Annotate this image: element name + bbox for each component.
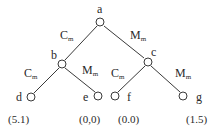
payoff-g: (1.5) [186, 113, 207, 125]
edge-label-b-d: Cm [24, 67, 37, 83]
edge-label-b-e: Mm [82, 64, 98, 80]
edge-label-a-c: Mm [130, 29, 146, 45]
edge-label-c-g: Mm [175, 67, 191, 83]
node-b [58, 60, 66, 68]
edge-label-c-f: Cm [111, 67, 124, 83]
payoff-e: (0,0) [79, 113, 100, 125]
node-label-e: e [83, 91, 88, 103]
node-c [144, 58, 152, 66]
node-label-b: b [51, 49, 57, 61]
node-d [27, 93, 35, 101]
edge-label-a-b: Cm [60, 29, 73, 45]
node-label-g: g [196, 91, 202, 103]
node-g [179, 92, 187, 100]
payoff-f: (0.0) [118, 113, 139, 125]
node-label-c: c [151, 46, 156, 58]
payoff-d: (5.1) [8, 113, 29, 125]
node-label-f: f [127, 91, 131, 103]
node-f [111, 92, 119, 100]
node-a [96, 18, 104, 26]
node-label-a: a [97, 3, 102, 15]
node-e [94, 92, 102, 100]
node-label-d: d [16, 91, 22, 103]
edge-b-d [34, 68, 59, 93]
